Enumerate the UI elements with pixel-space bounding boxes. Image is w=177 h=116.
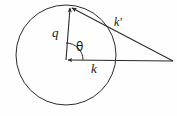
vector-q-line (66, 8, 70, 60)
vector-k-line (68, 60, 173, 61)
label-theta: θ (76, 41, 83, 53)
label-k-prime: k' (114, 16, 122, 28)
label-q: q (52, 26, 59, 39)
figure-canvas: q k k' θ (0, 0, 177, 116)
vector-diagram (0, 0, 177, 116)
label-k: k (91, 62, 97, 75)
vector-kprime-line (72, 8, 173, 61)
